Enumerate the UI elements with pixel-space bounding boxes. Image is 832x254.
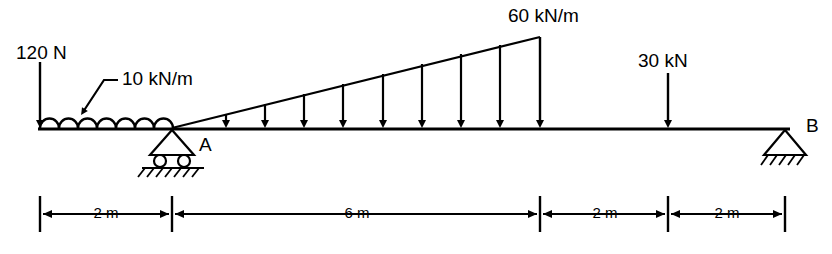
support-a-roller: A [138,130,212,177]
dimension-label-1: 2 m [93,204,118,221]
support-a-label: A [199,134,212,155]
point-load-120n-label: 120 N [16,42,67,63]
dimension-segment-2: 6 m [175,204,537,221]
support-b-pinned: B [761,115,819,165]
udl-arcs [40,119,173,129]
udl-10knm: 10 kN/m [40,68,193,128]
dimension-label-2: 6 m [344,204,369,221]
support-b-label: B [806,115,819,136]
udl-10knm-leader [83,80,118,112]
support-a-hatching [138,168,199,177]
dimension-line-group: 2 m 6 m 2 m 2 m [40,196,785,232]
beam-diagram-canvas: 120 N 10 kN/m [0,0,832,254]
triangular-load-60knm-label: 60 kN/m [508,5,579,26]
beam-diagram-root: 120 N 10 kN/m [0,0,832,254]
dimension-label-3: 2 m [592,204,617,221]
triangular-load-slope [172,37,540,128]
dimension-segment-4: 2 m [671,204,782,221]
udl-10knm-label: 10 kN/m [122,68,193,89]
point-load-30kn: 30 kN [638,50,688,124]
triangular-load-60knm: 60 kN/m [172,5,579,128]
dimension-segment-3: 2 m [543,204,665,221]
support-b-hatching [761,155,804,165]
point-load-30kn-label: 30 kN [638,50,688,71]
dimension-label-4: 2 m [714,204,739,221]
dimension-segment-1: 2 m [43,204,169,221]
point-load-120n: 120 N [16,42,67,124]
